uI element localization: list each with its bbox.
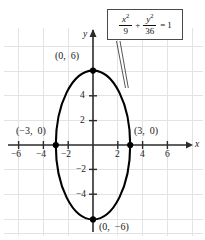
x-tick-label-2: 2 — [115, 150, 120, 160]
equals-sign: = — [160, 20, 165, 30]
x-exponent: 2 — [126, 12, 129, 19]
covertex-right-dot — [127, 142, 133, 148]
y-axis-label: y — [83, 30, 87, 40]
point-label-right: (3, 0) — [134, 126, 158, 136]
ellipse-figure: x2 9 + y2 36 = 1 x y −6 −4 −2 2 4 6 4 2 … — [0, 0, 205, 240]
x-axis-label: x — [195, 140, 199, 150]
vertex-bottom-dot — [90, 216, 96, 222]
y-axis-arrow — [90, 29, 97, 37]
y-tick-label-2: 2 — [80, 116, 85, 126]
x-tick-label--2: −2 — [61, 150, 71, 160]
vertex-top-dot — [90, 68, 96, 74]
fraction-y-numerator: y2 — [144, 13, 155, 25]
point-label-top: (0, 6) — [55, 51, 79, 61]
y-tick-label--2: −2 — [76, 165, 86, 175]
plus-operator: + — [135, 20, 140, 30]
fraction-x-term: x2 9 — [119, 13, 132, 36]
fraction-x-numerator: x2 — [120, 13, 131, 25]
x-tick-label-6: 6 — [165, 150, 170, 160]
fraction-y-term: y2 36 — [143, 13, 156, 36]
x-tick-label--6: −6 — [11, 150, 21, 160]
covertex-left-dot — [53, 142, 59, 148]
y-exponent: 2 — [150, 12, 153, 19]
equation-expression: x2 9 + y2 36 = 1 — [118, 13, 172, 36]
equation-callout-box: x2 9 + y2 36 = 1 — [107, 9, 183, 40]
point-label-left: (−3, 0) — [16, 126, 46, 136]
point-label-bottom: (0, −6) — [99, 222, 129, 232]
equation-rhs: 1 — [167, 20, 172, 30]
x-tick-label--4: −4 — [36, 150, 46, 160]
x-tick-label-4: 4 — [140, 150, 145, 160]
y-tick-label-4: 4 — [80, 91, 85, 101]
y-tick-label--4: −4 — [76, 190, 86, 200]
fraction-y-denominator: 36 — [143, 26, 156, 36]
fraction-x-denominator: 9 — [121, 26, 130, 36]
